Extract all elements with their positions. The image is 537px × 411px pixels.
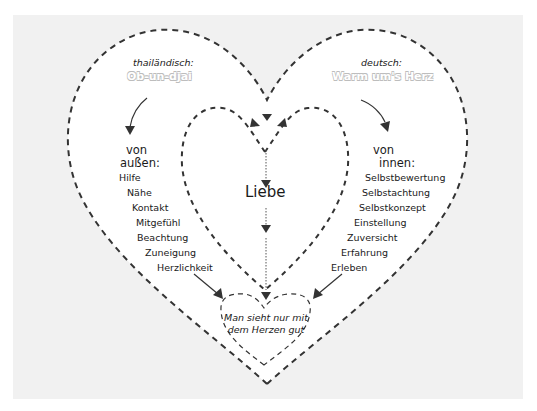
right-item: Einstellung	[354, 217, 407, 229]
right-item: Selbstkonzept	[359, 202, 426, 214]
left-heading-line1: von	[126, 143, 147, 157]
left-term: Ob-un-djai	[127, 71, 192, 83]
right-item: Zuversicht	[347, 232, 397, 244]
left-item: Beachtung	[137, 232, 188, 244]
left-item: Hilfe	[119, 172, 141, 184]
right-item: Selbstachtung	[362, 187, 430, 199]
left-heading-line2: außen:	[120, 156, 160, 170]
motto-text: Man sieht nur mit dem Herzen gut	[221, 312, 311, 336]
left-item: Nähe	[127, 187, 152, 199]
center-label-liebe: Liebe	[245, 186, 286, 198]
right-item: Selbstbewertung	[365, 172, 445, 184]
right-term: Warm um's Herz	[332, 71, 433, 83]
right-heading-line2: innen:	[379, 156, 415, 170]
left-language-label: thailändisch:	[133, 57, 194, 69]
right-heading-line1: von	[373, 143, 394, 157]
left-item: Kontakt	[132, 202, 168, 214]
right-language-label: deutsch:	[361, 57, 402, 69]
left-item: Mitgefühl	[136, 217, 180, 229]
left-item: Zuneigung	[145, 247, 196, 259]
left-item: Herzlichkeit	[157, 262, 213, 274]
heart-diagram	[0, 0, 537, 411]
right-item: Erleben	[331, 262, 367, 274]
right-item: Erfahrung	[341, 247, 388, 259]
